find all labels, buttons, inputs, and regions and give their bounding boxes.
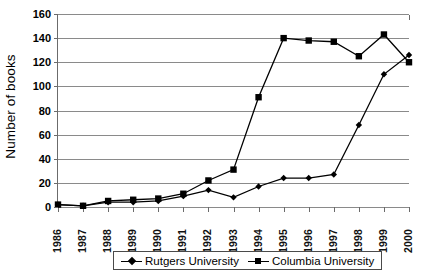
data-point	[381, 31, 387, 37]
y-tick-mark-120	[54, 62, 58, 63]
y-tick-label-80: 80	[17, 105, 51, 117]
y-axis-title-label: Number of books	[3, 54, 18, 158]
y-tick-mark-100	[54, 86, 58, 87]
x-tick-label-1988: 1988	[101, 213, 115, 253]
x-tick-label-1998: 1998	[352, 213, 366, 253]
data-point	[306, 175, 312, 181]
data-point	[205, 177, 211, 183]
x-tick-label-1996: 1996	[302, 213, 316, 253]
y-tick-label-20: 20	[17, 177, 51, 189]
y-tick-mark-0	[54, 207, 58, 208]
x-tick-label-1993: 1993	[227, 213, 241, 253]
x-tick-mark-1992	[208, 207, 209, 212]
data-point	[130, 197, 136, 203]
legend: Rutgers UniversityColumbia University	[113, 251, 382, 270]
series-columbia-university	[55, 31, 412, 209]
legend-item-label: Rutgers University	[145, 255, 239, 267]
x-tick-label-1989: 1989	[126, 213, 140, 253]
y-tick-mark-160	[54, 14, 58, 15]
data-point	[406, 59, 412, 65]
x-tick-mark-2000	[409, 207, 410, 212]
x-tick-mark-1989	[133, 207, 134, 212]
data-point	[230, 166, 236, 172]
legend-item: Rutgers University	[121, 255, 239, 267]
marker-glyph	[127, 256, 135, 264]
series-rutgers-university	[55, 52, 412, 209]
x-tick-label-2000: 2000	[402, 213, 416, 253]
data-point	[306, 37, 312, 43]
x-tick-mark-1991	[183, 207, 184, 212]
diamond-marker-icon	[121, 256, 142, 266]
data-point	[255, 94, 261, 100]
x-tick-label-1994: 1994	[252, 213, 266, 253]
data-point	[180, 191, 186, 197]
x-tick-mark-1997	[334, 207, 335, 212]
series-container	[58, 14, 409, 207]
data-point	[356, 122, 362, 128]
x-tick-mark-1996	[309, 207, 310, 212]
y-tick-mark-80	[54, 111, 58, 112]
data-point	[280, 35, 286, 41]
marker-glyph	[255, 258, 261, 264]
y-tick-mark-40	[54, 159, 58, 160]
y-tick-label-100: 100	[17, 80, 51, 92]
x-tick-label-1992: 1992	[201, 213, 215, 253]
x-tick-mark-1999	[384, 207, 385, 212]
x-tick-label-1986: 1986	[51, 213, 65, 253]
series-line	[58, 55, 409, 206]
x-tick-mark-1998	[359, 207, 360, 212]
y-tick-label-0: 0	[17, 201, 51, 213]
x-tick-label-1991: 1991	[176, 213, 190, 253]
x-tick-mark-1994	[259, 207, 260, 212]
y-tick-label-120: 120	[17, 56, 51, 68]
line-chart: Number of books 160140120100806040200 19…	[0, 0, 426, 276]
data-point	[331, 39, 337, 45]
x-tick-mark-1995	[284, 207, 285, 212]
x-tick-label-1990: 1990	[151, 213, 165, 253]
legend-item: Columbia University	[248, 255, 374, 267]
data-point	[255, 183, 261, 189]
top-right-tick	[409, 15, 410, 20]
y-tick-label-40: 40	[17, 153, 51, 165]
x-tick-label-1987: 1987	[76, 213, 90, 253]
x-tick-label-1997: 1997	[327, 213, 341, 253]
data-point	[80, 203, 86, 209]
y-tick-label-60: 60	[17, 129, 51, 141]
square-marker-icon	[248, 256, 269, 266]
series-line	[58, 35, 409, 206]
y-tick-label-160: 160	[17, 8, 51, 20]
legend-item-label: Columbia University	[272, 255, 374, 267]
x-tick-label-1999: 1999	[377, 213, 391, 253]
x-tick-mark-1990	[158, 207, 159, 212]
data-point	[280, 175, 286, 181]
y-tick-mark-60	[54, 135, 58, 136]
y-tick-label-140: 140	[17, 32, 51, 44]
data-point	[230, 194, 236, 200]
data-point	[155, 195, 161, 201]
x-tick-mark-1988	[108, 207, 109, 212]
y-tick-mark-20	[54, 183, 58, 184]
x-tick-label-1995: 1995	[277, 213, 291, 253]
x-tick-mark-1993	[234, 207, 235, 212]
y-tick-mark-140	[54, 38, 58, 39]
data-point	[205, 187, 211, 193]
plot-area	[57, 14, 409, 208]
data-point	[105, 198, 111, 204]
data-point	[356, 53, 362, 59]
data-point	[331, 171, 337, 177]
